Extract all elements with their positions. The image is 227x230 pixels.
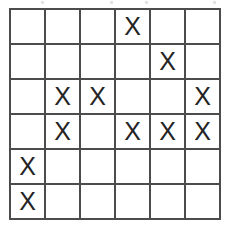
cell-mark: X [116,115,149,148]
top-edge-artifact [0,0,227,7]
grid-container: X X X X X X [9,8,221,220]
grid-cell-r3c1[interactable] [10,79,45,114]
grid-cell-r5c3[interactable] [80,149,115,184]
grid-cell-r2c4[interactable] [115,44,150,79]
grid-row: X [10,149,220,184]
cell-mark: X [151,115,184,148]
cell-mark: X [11,150,44,183]
grid-cell-r6c2[interactable] [45,184,80,219]
grid-cell-r1c4[interactable]: X [115,9,150,44]
grid-cell-r5c2[interactable] [45,149,80,184]
cell-mark: X [46,80,79,113]
artifact-tick [145,1,148,4]
cell-mark: X [11,185,44,218]
grid-row: X X X [10,79,220,114]
grid-cell-r1c2[interactable] [45,9,80,44]
grid-cell-r4c3[interactable] [80,114,115,149]
grid-cell-r4c1[interactable] [10,114,45,149]
cell-mark: X [116,10,149,43]
grid-cell-r6c5[interactable] [150,184,185,219]
grid-row: X [10,9,220,44]
grid-cell-r3c5[interactable] [150,79,185,114]
grid-cell-r4c4[interactable]: X [115,114,150,149]
grid-cell-r5c5[interactable] [150,149,185,184]
cell-mark: X [186,80,219,113]
grid-cell-r4c2[interactable]: X [45,114,80,149]
artifact-tick [110,1,113,4]
artifact-tick [213,1,216,4]
grid-cell-r4c5[interactable]: X [150,114,185,149]
grid-cell-r6c3[interactable] [80,184,115,219]
grid-row: X [10,44,220,79]
x-mark-grid: X X X X X X [9,8,221,220]
grid-cell-r5c1[interactable]: X [10,149,45,184]
grid-cell-r3c2[interactable]: X [45,79,80,114]
grid-cell-r5c6[interactable] [185,149,220,184]
grid-cell-r6c6[interactable] [185,184,220,219]
artifact-tick [41,1,44,4]
grid-cell-r4c6[interactable]: X [185,114,220,149]
grid-cell-r2c5[interactable]: X [150,44,185,79]
grid-cell-r1c3[interactable] [80,9,115,44]
grid-cell-r6c4[interactable] [115,184,150,219]
grid-cell-r6c1[interactable]: X [10,184,45,219]
grid-row: X X X X [10,114,220,149]
grid-cell-r2c2[interactable] [45,44,80,79]
grid-row: X [10,184,220,219]
cell-mark: X [186,115,219,148]
grid-cell-r2c1[interactable] [10,44,45,79]
cell-mark: X [151,45,184,78]
grid-cell-r1c5[interactable] [150,9,185,44]
grid-cell-r1c6[interactable] [185,9,220,44]
grid-cell-r3c4[interactable] [115,79,150,114]
grid-cell-r2c3[interactable] [80,44,115,79]
grid-cell-r1c1[interactable] [10,9,45,44]
grid-cell-r2c6[interactable] [185,44,220,79]
grid-cell-r3c3[interactable]: X [80,79,115,114]
grid-cell-r3c6[interactable]: X [185,79,220,114]
cell-mark: X [81,80,114,113]
grid-cell-r5c4[interactable] [115,149,150,184]
cell-mark: X [46,115,79,148]
